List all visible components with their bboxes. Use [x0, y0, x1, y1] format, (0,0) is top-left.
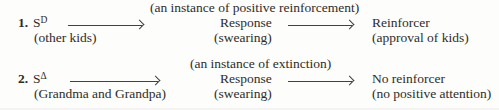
row2-response-label: Response — [220, 72, 272, 86]
row1-response-right-arrow-icon — [288, 25, 352, 26]
row1-number: 1. — [18, 16, 28, 30]
scan-artifact — [0, 108, 499, 110]
row2-stimulus-superscript: Δ — [41, 71, 47, 81]
row1-annotation: (an instance of positive reinforcement) — [150, 1, 359, 15]
row2-consequence-note: (no positive attention) — [372, 87, 491, 101]
row1-stimulus-note: (other kids) — [34, 31, 97, 45]
row2-number: 2. — [18, 72, 28, 86]
row2-response-right-arrow-icon — [288, 81, 352, 82]
row1-response-note: (swearing) — [214, 31, 272, 45]
row2-consequence-label: No reinforcer — [372, 72, 445, 86]
row1-consequence-note: (approval of kids) — [372, 31, 469, 45]
row1-stimulus-right-arrow-icon — [68, 25, 142, 26]
row1-consequence-label: Reinforcer — [372, 16, 430, 30]
contingency-diagram: (an instance of positive reinforcement) … — [0, 0, 499, 110]
row1-stimulus-letter: S — [33, 15, 41, 30]
row2-stimulus-right-arrow-icon — [70, 81, 158, 82]
row2-stimulus-letter: S — [33, 71, 41, 86]
row1-stimulus-superscript: D — [41, 15, 48, 25]
row2-stimulus-note: (Grandma and Grandpa) — [34, 87, 166, 101]
row1-response-label: Response — [220, 16, 272, 30]
row2-response-note: (swearing) — [214, 87, 272, 101]
row2-stimulus: SΔ — [33, 72, 47, 87]
row2-annotation: (an instance of extinction) — [190, 57, 331, 71]
row1-stimulus: SD — [33, 16, 47, 31]
